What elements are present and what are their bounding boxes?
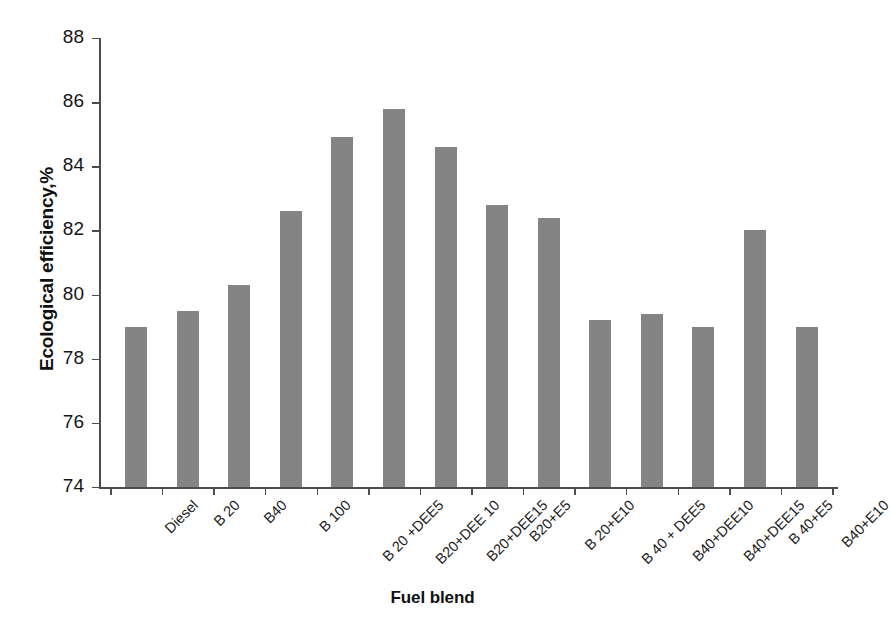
- x-tick: [420, 487, 421, 495]
- bar: [589, 320, 611, 487]
- bar: [744, 230, 766, 487]
- x-tick: [678, 487, 679, 495]
- x-tick-label: B 20: [210, 497, 242, 529]
- x-tick: [213, 487, 214, 495]
- y-tick: 76: [92, 423, 99, 424]
- bar: [538, 218, 560, 487]
- y-tick: 82: [92, 230, 99, 231]
- y-axis-line: [99, 38, 101, 487]
- x-tick: [162, 487, 163, 495]
- bar: [435, 147, 457, 487]
- y-tick: 84: [92, 166, 99, 167]
- x-tick-label: B 100: [316, 497, 354, 535]
- bar: [692, 327, 714, 487]
- y-tick-label: 80: [63, 283, 84, 305]
- bar: [486, 205, 508, 487]
- y-axis-title: Ecological efficiency,%: [36, 104, 58, 434]
- bar: [641, 314, 663, 487]
- x-axis-title: Fuel blend: [0, 588, 865, 608]
- bar: [177, 311, 199, 487]
- y-tick-label: 84: [63, 154, 84, 176]
- x-tick: [781, 487, 782, 495]
- x-tick: [265, 487, 266, 495]
- y-tick-label: 82: [63, 218, 84, 240]
- y-tick: 80: [92, 295, 99, 296]
- y-tick-label: 78: [63, 347, 84, 369]
- bar: [280, 211, 302, 487]
- x-tick: [523, 487, 524, 495]
- x-tick-label: B40: [261, 497, 290, 526]
- y-tick: 74: [92, 487, 99, 488]
- plot-area: 7476788082848688: [99, 38, 838, 487]
- bar: [125, 327, 147, 487]
- x-tick: [626, 487, 627, 495]
- x-tick: [574, 487, 575, 495]
- x-tick: [368, 487, 369, 495]
- x-tick-label: B 20+E10: [581, 497, 637, 553]
- bar: [331, 137, 353, 487]
- x-tick: [729, 487, 730, 495]
- bar: [383, 109, 405, 487]
- y-tick-label: 76: [63, 411, 84, 433]
- y-tick: 78: [92, 359, 99, 360]
- y-tick: 86: [92, 102, 99, 103]
- x-tick: [832, 487, 833, 495]
- x-tick-label: B40+E10: [838, 497, 891, 550]
- y-tick-label: 88: [63, 26, 84, 48]
- x-tick: [317, 487, 318, 495]
- x-tick-label: Diesel: [162, 497, 201, 536]
- x-axis-line: [99, 487, 838, 489]
- x-tick: [471, 487, 472, 495]
- y-tick: 88: [92, 38, 99, 39]
- y-tick-label: 86: [63, 90, 84, 112]
- y-tick-label: 74: [63, 475, 84, 497]
- bar: [796, 327, 818, 487]
- bar: [228, 285, 250, 487]
- x-tick: [110, 487, 111, 495]
